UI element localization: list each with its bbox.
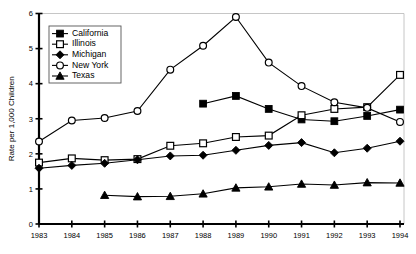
data-point-new-york — [331, 99, 338, 106]
data-point-michigan — [298, 139, 306, 147]
x-tick-label: 1988 — [195, 231, 212, 240]
data-point-illinois — [233, 134, 240, 141]
series-michigan — [35, 137, 404, 172]
x-tick-label: 1987 — [162, 231, 179, 240]
y-tick-label: 6 — [29, 9, 33, 18]
series-california — [200, 93, 404, 125]
legend-marker-new-york — [57, 62, 64, 69]
data-point-michigan — [363, 144, 371, 152]
data-point-new-york — [68, 117, 75, 124]
data-point-california — [200, 100, 207, 107]
y-tick-label: 0 — [29, 220, 33, 229]
data-point-new-york — [200, 42, 207, 49]
data-point-michigan — [396, 137, 404, 145]
series-line-texas — [105, 183, 400, 197]
data-point-california — [364, 113, 371, 120]
y-tick-label: 5 — [29, 44, 33, 53]
data-point-illinois — [298, 112, 305, 119]
y-axis-ticks: 0123456 — [29, 9, 43, 229]
x-tick-label: 1989 — [228, 231, 245, 240]
data-point-michigan — [166, 152, 174, 160]
data-point-illinois — [68, 155, 75, 162]
data-point-michigan — [330, 149, 338, 157]
legend-label-illinois: Illinois — [72, 38, 96, 48]
legend-item-michigan[interactable]: Michigan — [52, 49, 107, 59]
y-axis-title: Rate per 1,000 Children — [7, 76, 16, 161]
x-tick-label: 1991 — [293, 231, 310, 240]
legend-label-michigan: Michigan — [72, 49, 107, 59]
data-point-illinois — [397, 71, 404, 78]
legend-label-texas: Texas — [72, 70, 94, 80]
x-tick-label: 1986 — [129, 231, 146, 240]
data-point-new-york — [167, 66, 174, 73]
data-point-new-york — [233, 14, 240, 21]
legend-marker-illinois — [57, 41, 64, 48]
data-point-california — [397, 106, 404, 113]
data-point-new-york — [397, 119, 404, 126]
data-point-california — [265, 106, 272, 113]
data-point-new-york — [134, 108, 141, 115]
y-tick-label: 3 — [29, 115, 33, 124]
x-tick-label: 1994 — [392, 231, 409, 240]
data-point-new-york — [298, 83, 305, 90]
legend: CaliforniaIllinoisMichiganNew YorkTexas — [49, 26, 121, 83]
x-tick-label: 1993 — [359, 231, 376, 240]
legend-label-new-york: New York — [72, 60, 109, 70]
x-tick-label: 1983 — [31, 231, 48, 240]
legend-label-california: California — [72, 28, 109, 38]
data-point-michigan — [232, 146, 240, 154]
series-line-michigan — [39, 141, 400, 168]
data-point-new-york — [265, 59, 272, 66]
data-point-illinois — [331, 106, 338, 113]
data-point-new-york — [364, 104, 371, 111]
y-tick-label: 1 — [29, 185, 33, 194]
data-point-illinois — [200, 140, 207, 147]
data-point-michigan — [68, 161, 76, 169]
chart-canvas: 0123456198319841985198619871988198919901… — [0, 0, 416, 254]
x-tick-label: 1990 — [260, 231, 277, 240]
data-point-michigan — [199, 151, 207, 159]
data-point-illinois — [265, 132, 272, 139]
data-point-california — [233, 93, 240, 100]
line-chart: 0123456198319841985198619871988198919901… — [0, 0, 416, 254]
data-point-new-york — [101, 115, 108, 122]
data-point-new-york — [36, 138, 43, 145]
x-tick-label: 1992 — [326, 231, 343, 240]
x-tick-label: 1984 — [63, 231, 80, 240]
series-texas — [101, 179, 405, 200]
y-tick-label: 4 — [29, 79, 33, 88]
data-point-michigan — [265, 141, 273, 149]
data-point-california — [331, 118, 338, 125]
x-tick-label: 1985 — [96, 231, 113, 240]
data-point-illinois — [167, 142, 174, 149]
legend-marker-california — [57, 30, 64, 37]
y-tick-label: 2 — [29, 150, 33, 159]
